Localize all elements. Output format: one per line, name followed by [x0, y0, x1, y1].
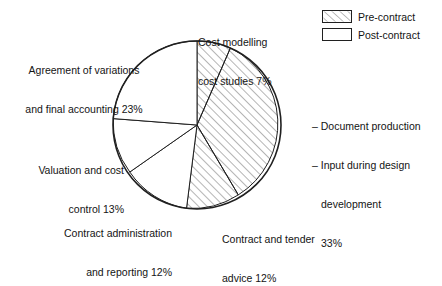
- slice-label-line: advice 12%: [222, 272, 352, 285]
- blank-swatch-icon: [322, 28, 352, 41]
- slice-label-line: Contract administration: [20, 227, 172, 240]
- legend-label-pre-contract: Pre-contract: [358, 11, 415, 23]
- slice-label-line: – Document production: [312, 120, 442, 133]
- slice-label-line: cost studies 7%: [198, 75, 318, 88]
- slice-label-line: – Input during design: [312, 159, 442, 172]
- legend-item-post-contract[interactable]: Post-contract: [322, 26, 440, 43]
- slice-label-contract-administration: Contract administration and reporting 12…: [20, 201, 172, 286]
- slice-label-line: Contract and tender: [222, 233, 352, 246]
- slice-label-agreement-variations: Agreement of variations and final accoun…: [4, 38, 164, 129]
- slice-label-line: Agreement of variations: [4, 64, 164, 77]
- slice-label-cost-modelling: Cost modelling cost studies 7%: [198, 10, 318, 101]
- slice-label-line: Valuation and cost: [6, 164, 124, 177]
- slice-label-line: and reporting 12%: [20, 266, 172, 279]
- slice-label-line: and final accounting 23%: [4, 103, 164, 116]
- legend-item-pre-contract[interactable]: Pre-contract: [322, 8, 440, 25]
- legend-label-post-contract: Post-contract: [358, 29, 420, 41]
- slice-label-line: Cost modelling: [198, 36, 318, 49]
- legend: Pre-contract Post-contract: [322, 8, 440, 44]
- slice-label-contract-tender-advice: Contract and tender advice 12%: [222, 207, 352, 286]
- hatched-swatch-icon: [322, 10, 352, 23]
